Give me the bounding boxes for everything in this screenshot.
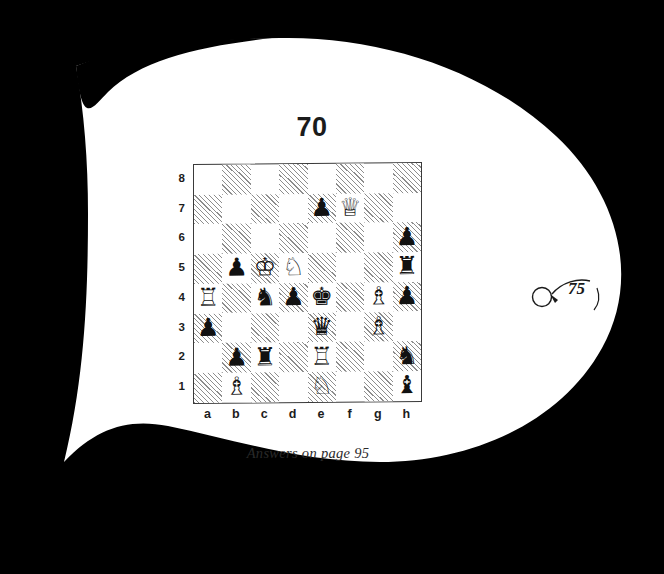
board-square-d8[interactable] bbox=[279, 164, 307, 194]
board-square-g8[interactable] bbox=[364, 163, 392, 193]
board-square-a4[interactable]: ♖ bbox=[194, 284, 222, 314]
board-square-d6[interactable] bbox=[279, 223, 307, 253]
piece-white-king-c5[interactable]: ♔ bbox=[251, 253, 279, 283]
board-square-a5[interactable] bbox=[194, 254, 222, 284]
board-square-h3[interactable] bbox=[393, 312, 421, 342]
board-square-f7[interactable]: ♕ bbox=[336, 193, 364, 223]
piece-white-knight-d5[interactable]: ♘ bbox=[279, 253, 307, 283]
piece-black-knight-c4[interactable]: ♞ bbox=[251, 283, 279, 313]
piece-black-bishop-h1[interactable]: ♝ bbox=[393, 371, 421, 401]
board-square-g4[interactable]: ♗ bbox=[364, 282, 392, 312]
board-square-h4[interactable]: ♟ bbox=[393, 282, 421, 312]
board-square-d1[interactable] bbox=[279, 372, 307, 402]
knight-icon: ♘ bbox=[282, 254, 304, 279]
piece-white-bishop-b1[interactable]: ♗ bbox=[222, 372, 250, 402]
board-square-g5[interactable] bbox=[364, 252, 392, 282]
board-square-h1[interactable]: ♝ bbox=[393, 371, 421, 401]
piece-black-queen-e3[interactable]: ♛ bbox=[308, 312, 336, 342]
piece-white-rook-a4[interactable]: ♖ bbox=[194, 284, 222, 314]
board-square-e5[interactable] bbox=[308, 253, 336, 283]
board-square-c6[interactable] bbox=[251, 224, 279, 254]
piece-white-bishop-g4[interactable]: ♗ bbox=[364, 282, 392, 312]
board-square-b8[interactable] bbox=[222, 164, 250, 194]
board-square-f2[interactable] bbox=[336, 342, 364, 372]
folio-page-number: 75 bbox=[568, 279, 585, 299]
board-square-b6[interactable] bbox=[222, 224, 250, 254]
board-square-h7[interactable] bbox=[393, 193, 421, 223]
board-square-b3[interactable] bbox=[222, 313, 250, 343]
board-square-a7[interactable] bbox=[194, 194, 222, 224]
board-square-c2[interactable]: ♜ bbox=[251, 342, 279, 372]
board-square-c7[interactable] bbox=[251, 194, 279, 224]
piece-black-pawn-e7[interactable]: ♟ bbox=[308, 193, 336, 223]
pawn-icon: ♟ bbox=[311, 195, 333, 220]
piece-black-king-e4[interactable]: ♚ bbox=[308, 283, 336, 313]
board-square-c1[interactable] bbox=[251, 372, 279, 402]
board-square-h2[interactable]: ♞ bbox=[393, 341, 421, 371]
board-square-d2[interactable] bbox=[279, 342, 307, 372]
board-square-h8[interactable] bbox=[393, 163, 421, 193]
board-square-g1[interactable] bbox=[364, 371, 392, 401]
board-square-g6[interactable] bbox=[364, 223, 392, 253]
piece-black-rook-c2[interactable]: ♜ bbox=[251, 342, 279, 372]
board-square-g7[interactable] bbox=[364, 193, 392, 223]
piece-black-knight-h2[interactable]: ♞ bbox=[393, 341, 421, 371]
board-square-h6[interactable]: ♟ bbox=[393, 222, 421, 252]
board-square-a3[interactable]: ♟ bbox=[194, 313, 222, 343]
board-square-d5[interactable]: ♘ bbox=[279, 253, 307, 283]
board-square-c3[interactable] bbox=[251, 313, 279, 343]
piece-black-pawn-d4[interactable]: ♟ bbox=[279, 283, 307, 313]
board-square-b5[interactable]: ♟ bbox=[222, 254, 250, 284]
file-label-a: a bbox=[193, 407, 222, 421]
rook-icon: ♖ bbox=[311, 343, 333, 368]
board-square-e2[interactable]: ♖ bbox=[308, 342, 336, 372]
board-square-f6[interactable] bbox=[336, 223, 364, 253]
piece-black-rook-h5[interactable]: ♜ bbox=[393, 252, 421, 282]
chess-board[interactable]: ♟♕♟♟♔♘♜♖♞♟♚♗♟♟♛♗♟♜♖♞♗♘♝ bbox=[193, 162, 422, 404]
board-square-h5[interactable]: ♜ bbox=[393, 252, 421, 282]
piece-black-pawn-b2[interactable]: ♟ bbox=[222, 343, 250, 373]
board-square-g2[interactable] bbox=[364, 341, 392, 371]
rook-icon: ♜ bbox=[254, 344, 276, 369]
board-square-a8[interactable] bbox=[194, 165, 222, 195]
board-square-f3[interactable] bbox=[336, 312, 364, 342]
piece-white-bishop-g3[interactable]: ♗ bbox=[364, 312, 392, 342]
board-square-a1[interactable] bbox=[194, 373, 222, 403]
piece-white-rook-e2[interactable]: ♖ bbox=[308, 342, 336, 372]
answers-caption: Answers on page 95 bbox=[190, 445, 426, 462]
board-square-f8[interactable] bbox=[336, 164, 364, 194]
board-square-b7[interactable] bbox=[222, 194, 250, 224]
board-square-f1[interactable] bbox=[336, 371, 364, 401]
piece-black-pawn-h4[interactable]: ♟ bbox=[393, 282, 421, 312]
board-square-e6[interactable] bbox=[308, 223, 336, 253]
board-square-e3[interactable]: ♛ bbox=[308, 312, 336, 342]
piece-white-queen-f7[interactable]: ♕ bbox=[336, 193, 364, 223]
board-square-d4[interactable]: ♟ bbox=[279, 283, 307, 313]
rank-label-6: 6 bbox=[169, 231, 185, 243]
board-square-e1[interactable]: ♘ bbox=[308, 372, 336, 402]
board-square-f5[interactable] bbox=[336, 253, 364, 283]
knight-icon: ♘ bbox=[311, 373, 333, 398]
file-label-e: e bbox=[307, 407, 336, 421]
board-square-a2[interactable] bbox=[194, 343, 222, 373]
board-square-f4[interactable] bbox=[336, 282, 364, 312]
board-square-d3[interactable] bbox=[279, 312, 307, 342]
board-square-d7[interactable] bbox=[279, 194, 307, 224]
board-square-b2[interactable]: ♟ bbox=[222, 343, 250, 373]
piece-black-pawn-h6[interactable]: ♟ bbox=[393, 222, 421, 252]
board-square-e8[interactable] bbox=[308, 164, 336, 194]
board-square-c5[interactable]: ♔ bbox=[251, 253, 279, 283]
piece-black-pawn-a3[interactable]: ♟ bbox=[194, 313, 222, 343]
board-square-c4[interactable]: ♞ bbox=[251, 283, 279, 313]
piece-white-knight-e1[interactable]: ♘ bbox=[308, 372, 336, 402]
piece-black-pawn-b5[interactable]: ♟ bbox=[222, 254, 250, 284]
board-square-c8[interactable] bbox=[251, 164, 279, 194]
board-square-a6[interactable] bbox=[194, 224, 222, 254]
rank-label-8: 8 bbox=[169, 172, 185, 184]
board-square-e7[interactable]: ♟ bbox=[308, 193, 336, 223]
board-square-b1[interactable]: ♗ bbox=[222, 372, 250, 402]
board-square-b4[interactable] bbox=[222, 283, 250, 313]
board-square-e4[interactable]: ♚ bbox=[308, 283, 336, 313]
board-square-g3[interactable]: ♗ bbox=[364, 312, 392, 342]
pawn-icon: ♟ bbox=[225, 255, 247, 280]
